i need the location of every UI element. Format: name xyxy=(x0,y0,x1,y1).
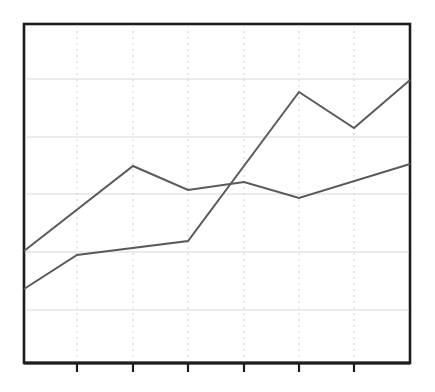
line-chart-figure xyxy=(0,0,435,392)
chart-canvas xyxy=(0,0,435,392)
